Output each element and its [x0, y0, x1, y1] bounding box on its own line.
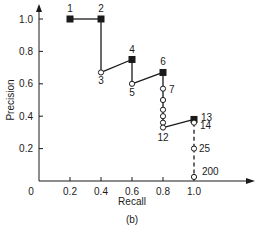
- x-axis-title: Recall: [118, 196, 146, 207]
- point-label-rank-4: 4: [129, 44, 135, 55]
- nonrelevant-circle-marker-icon: [160, 86, 165, 91]
- x-tick-label: 0.8: [156, 186, 170, 197]
- nonrelevant-circle-marker-icon: [191, 174, 196, 179]
- relevant-square-marker-icon: [67, 16, 74, 23]
- figure-caption: (b): [126, 214, 138, 225]
- point-label-rank-7: 7: [169, 84, 175, 95]
- point-label-rank-12: 12: [157, 132, 169, 143]
- nonrelevant-circle-marker-icon: [98, 70, 103, 75]
- y-tick-label: 0.6: [19, 78, 33, 89]
- y-axis-arrow-icon: [36, 4, 42, 12]
- nonrelevant-circle-marker-icon: [191, 146, 196, 151]
- point-label-rank-6: 6: [160, 56, 166, 67]
- axes: 00.20.40.60.81.00.20.40.60.81.0: [19, 4, 255, 197]
- nonrelevant-circle-marker-icon: [191, 120, 196, 125]
- x-tick-label: 0.2: [63, 186, 77, 197]
- nonrelevant-circle-marker-icon: [160, 107, 165, 112]
- point-label-rank-1: 1: [67, 3, 73, 14]
- x-axis-arrow-icon: [246, 178, 255, 184]
- relevant-square-marker-icon: [160, 69, 167, 76]
- x-tick-label: 0.4: [94, 186, 108, 197]
- nonrelevant-circle-marker-icon: [160, 97, 165, 102]
- nonrelevant-circle-marker-icon: [129, 81, 134, 86]
- point-label-rank-14: 14: [200, 120, 212, 131]
- y-tick-label: 1.0: [19, 14, 33, 25]
- x-tick-label: 1.0: [187, 186, 201, 197]
- nonrelevant-circle-marker-icon: [160, 114, 165, 119]
- point-label-rank-200: 200: [202, 166, 219, 177]
- point-labels: 123456712131425200: [67, 3, 219, 177]
- curve-segment: [163, 119, 194, 127]
- point-label-rank-25: 25: [199, 143, 211, 154]
- relevant-square-marker-icon: [129, 56, 136, 63]
- y-axis-title: Precision: [5, 79, 16, 120]
- curve-segment: [132, 72, 163, 83]
- curve-segment: [101, 60, 132, 73]
- x-tick-label: 0: [28, 186, 34, 197]
- y-tick-label: 0.2: [19, 143, 33, 154]
- relevant-square-marker-icon: [98, 16, 105, 23]
- y-tick-label: 0.4: [19, 111, 33, 122]
- precision-recall-chart: 00.20.40.60.81.00.20.40.60.81.0 12345671…: [0, 0, 262, 227]
- y-tick-label: 0.8: [19, 46, 33, 57]
- point-label-rank-5: 5: [129, 87, 135, 98]
- point-label-rank-3: 3: [98, 75, 104, 86]
- nonrelevant-circle-marker-icon: [160, 125, 165, 130]
- point-label-rank-2: 2: [98, 3, 104, 14]
